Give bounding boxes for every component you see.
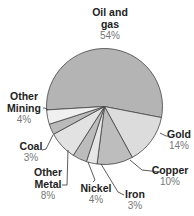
- label-name-line2: Metal: [30, 178, 66, 190]
- label-percent: 8%: [30, 190, 66, 202]
- label-percent: 3%: [120, 200, 150, 212]
- label-oil-and-gas: Oil and gas 54%: [80, 6, 140, 42]
- label-percent: 4%: [76, 194, 116, 206]
- label-name: Other: [30, 166, 66, 178]
- label-name: Iron: [120, 188, 150, 200]
- label-nickel: Nickel 4%: [76, 182, 116, 206]
- label-name-line2: Mining: [4, 102, 44, 114]
- label-copper: Copper 10%: [146, 164, 194, 188]
- label-name: Nickel: [76, 182, 116, 194]
- label-percent: 4%: [4, 114, 44, 126]
- label-name-line2: gas: [80, 18, 140, 30]
- label-other-mining: Other Mining 4%: [4, 90, 44, 126]
- leader-nickel: [88, 162, 95, 182]
- label-name: Oil and: [80, 6, 140, 18]
- label-percent: 14%: [164, 140, 194, 152]
- label-name: Other: [4, 90, 44, 102]
- label-percent: 3%: [16, 152, 46, 164]
- label-name: Coal: [16, 140, 46, 152]
- label-percent: 10%: [146, 176, 194, 188]
- label-coal: Coal 3%: [16, 140, 46, 164]
- pie-slices: [46, 48, 162, 164]
- label-percent: 54%: [80, 30, 140, 42]
- label-name: Gold: [164, 128, 194, 140]
- label-gold: Gold 14%: [164, 128, 194, 152]
- label-other-metal: Other Metal 8%: [30, 166, 66, 202]
- label-iron: Iron 3%: [120, 188, 150, 212]
- label-name: Copper: [146, 164, 194, 176]
